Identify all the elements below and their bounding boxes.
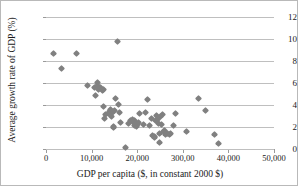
data-point — [167, 130, 174, 137]
data-point — [195, 95, 202, 102]
data-point — [73, 50, 80, 57]
data-point — [50, 50, 57, 57]
gridline-y-0 — [46, 149, 274, 150]
data-point — [146, 122, 153, 129]
gridline-y-2 — [46, 105, 274, 106]
data-point — [116, 109, 123, 116]
x-axis-title: GDP per capita ($, in constant 2000 $) — [1, 169, 298, 179]
data-point — [170, 122, 177, 129]
data-point — [183, 128, 190, 135]
data-point — [122, 144, 129, 151]
scatter-chart-figure: Average growth rate of GDP (%) 024681012… — [0, 0, 298, 186]
data-point — [156, 139, 163, 146]
data-point — [92, 92, 99, 99]
data-point — [202, 107, 209, 114]
data-point — [142, 109, 149, 116]
gridline-y-5 — [46, 39, 274, 40]
data-point — [58, 65, 65, 72]
data-point — [215, 140, 222, 147]
gridline-y-4 — [46, 61, 274, 62]
data-point — [115, 101, 122, 108]
y-axis-title: Average growth rate of GDP (%) — [7, 10, 17, 150]
data-point — [117, 119, 124, 126]
plot-area — [46, 17, 274, 149]
x-tick-label-5: 50,000 — [244, 154, 298, 163]
gridline-y-6 — [46, 17, 274, 18]
data-point — [172, 110, 179, 117]
gridline-y-3 — [46, 83, 274, 84]
data-point — [211, 131, 218, 138]
data-point — [144, 96, 151, 103]
